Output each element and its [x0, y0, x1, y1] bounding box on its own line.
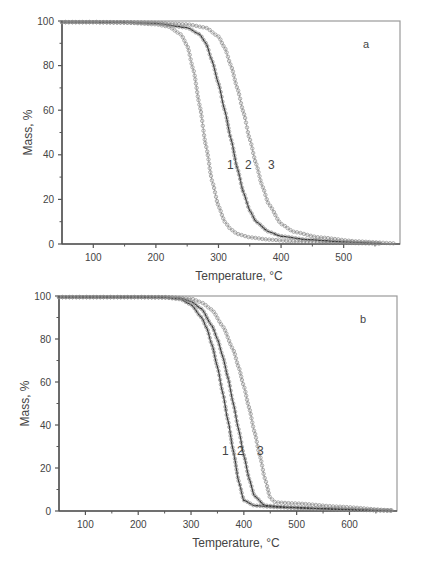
x-tick-label: 200 [130, 519, 147, 530]
series-line [62, 22, 381, 243]
x-tick-label: 400 [236, 519, 253, 530]
x-tick-label: 300 [210, 252, 227, 263]
curve-label-1: 1 [222, 444, 229, 458]
y-tick-label: 40 [43, 149, 55, 160]
y-axis-label: Mass, % [18, 380, 32, 426]
curve-label-3: 3 [268, 158, 275, 172]
y-tick-label: 0 [48, 239, 54, 250]
y-tick-label: 100 [34, 291, 51, 302]
curve-label-2: 2 [245, 158, 252, 172]
curve-label-1: 1 [227, 158, 234, 172]
x-tick-label: 600 [341, 519, 358, 530]
panel-label: a [363, 38, 370, 50]
x-tick-label: 400 [273, 252, 290, 263]
x-tick-label: 500 [335, 252, 352, 263]
x-axis-label: Temperature, °C [192, 536, 280, 550]
x-tick-label: 100 [77, 519, 94, 530]
panel-label: b [360, 313, 366, 325]
chart-b-plot: 020406080100100200300400500600Temperatur… [0, 284, 421, 568]
x-axis-label: Temperature, °C [195, 269, 283, 283]
plot-frame [59, 296, 397, 511]
y-tick-label: 0 [45, 506, 51, 517]
y-axis-label: Mass, % [21, 109, 35, 155]
series-line [59, 297, 392, 511]
y-tick-label: 60 [43, 105, 55, 116]
y-tick-label: 60 [40, 377, 52, 388]
chart-panel-a: 020406080100100200300400500Temperature, … [0, 0, 421, 284]
curve-label-3: 3 [257, 444, 264, 458]
y-tick-label: 80 [43, 60, 55, 71]
curve-label-2: 2 [237, 444, 244, 458]
series-1 [60, 20, 381, 245]
x-tick-label: 300 [183, 519, 200, 530]
chart-a-plot: 020406080100100200300400500Temperature, … [0, 0, 421, 284]
chart-panel-b: 020406080100100200300400500600Temperatur… [0, 284, 421, 568]
y-tick-label: 40 [40, 420, 52, 431]
y-tick-label: 20 [43, 194, 55, 205]
y-tick-label: 20 [40, 463, 52, 474]
plot-frame [62, 21, 400, 244]
x-tick-label: 200 [148, 252, 165, 263]
series-line [62, 22, 381, 244]
y-tick-label: 80 [40, 334, 52, 345]
x-tick-label: 500 [288, 519, 305, 530]
y-tick-label: 100 [37, 16, 54, 27]
x-tick-label: 100 [85, 252, 102, 263]
